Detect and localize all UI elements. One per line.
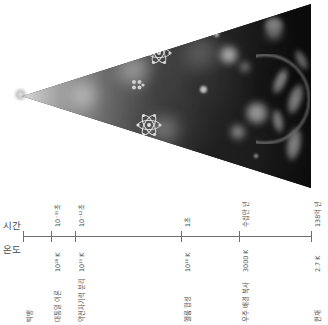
timeline-axis-group: 시간 온도 빅뱅10⁻³⁵초10²⁸ K대통일 이론10⁻¹²초10¹⁵ K약전… xyxy=(0,196,328,325)
tick-label-temperature: 10²⁸ K xyxy=(55,253,61,272)
tick-label-event: 대통일 이론 xyxy=(55,290,61,322)
axis-tick xyxy=(181,231,182,242)
axis-label-temperature: 온도 xyxy=(3,242,22,256)
axis-tick xyxy=(311,231,312,242)
tick-label-temperature: 10¹⁵ K xyxy=(79,253,85,272)
cone-image-body xyxy=(22,4,311,188)
tick-label-time: 1초 xyxy=(185,217,191,227)
tick-label-event: 약전자기력 분리 xyxy=(79,278,85,322)
tick-label-time: 수십만 년 xyxy=(243,201,249,227)
tick-label-event: 우주 배경 복사 xyxy=(243,282,249,322)
tick-label-temperature: 2.7 K xyxy=(315,256,321,272)
tick-label-time: 138억 년 xyxy=(315,201,321,227)
axis-tick xyxy=(239,231,240,242)
tick-label-time: 10⁻¹²초 xyxy=(79,204,85,227)
big-bang-point-icon xyxy=(14,88,27,101)
tick-label-time: 10⁻³⁵초 xyxy=(55,204,61,227)
axis-tick xyxy=(51,231,52,242)
tick-label-temperature: 10¹⁰ K xyxy=(185,253,191,272)
expanding-universe-cone xyxy=(0,0,328,192)
timeline-axis-line xyxy=(23,236,311,237)
axis-tick xyxy=(23,231,24,242)
tick-label-event: 헬륨 합성 xyxy=(185,296,191,322)
axis-label-time: 시간 xyxy=(3,218,22,232)
tick-label-event: 빅뱅 xyxy=(27,310,33,322)
axis-tick xyxy=(75,231,76,242)
cone-vignette xyxy=(22,4,311,188)
figure-canvas: 시간 온도 빅뱅10⁻³⁵초10²⁸ K대통일 이론10⁻¹²초10¹⁵ K약전… xyxy=(0,0,328,325)
tick-label-temperature: 3000 K xyxy=(243,250,249,273)
tick-label-event: 현재 xyxy=(315,310,321,322)
